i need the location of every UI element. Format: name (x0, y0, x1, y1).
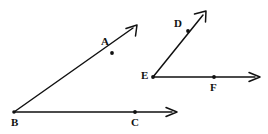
point-D-dot (186, 29, 190, 33)
point-label-E: E (141, 70, 148, 81)
ray-BA-line (14, 28, 133, 112)
point-F-dot (212, 75, 216, 79)
ray-BA-arrowhead (126, 25, 137, 36)
point-label-C: C (131, 117, 139, 128)
point-A-dot (110, 51, 114, 55)
point-E-vertex-dot (151, 75, 155, 79)
angle-abc-group (12, 25, 177, 117)
point-label-D: D (174, 18, 182, 29)
ray-ED-arrowhead (195, 11, 207, 22)
point-label-A: A (101, 36, 109, 47)
geometry-figure: B A C E D F (0, 0, 268, 134)
point-B-vertex-dot (12, 110, 16, 114)
geometry-canvas (0, 0, 268, 134)
point-C-dot (133, 110, 137, 114)
point-label-B: B (11, 117, 18, 128)
angle-def-group (151, 11, 260, 82)
point-label-F: F (210, 82, 217, 93)
